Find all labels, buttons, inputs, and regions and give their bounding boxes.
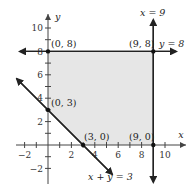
y-tick-label: 10: [32, 23, 44, 33]
x-tick-label: 10: [159, 150, 171, 160]
x-axis-arrow-icon: [180, 142, 186, 148]
equation-label-y-equals-8: y = 8: [158, 38, 184, 49]
y-axis-arrow-icon: [45, 14, 51, 20]
point-0-3: [46, 108, 50, 112]
x-tick-label: 2: [69, 150, 75, 160]
point-0-8: [46, 49, 50, 53]
equation-label-x-equals-9: x = 9: [140, 7, 165, 18]
equation-label-x-plus-y-equals-3: x + y = 3: [88, 171, 133, 182]
point-label-0-8: (0, 8): [51, 38, 77, 49]
point-label-0-3: (0, 3): [51, 97, 77, 108]
y-axis-label: y: [54, 11, 61, 22]
point-9-8: [151, 49, 155, 53]
point-label-9-0: (9, 0): [129, 131, 155, 142]
y-tick-label: 2: [37, 117, 43, 127]
x-tick-label: −2: [18, 150, 31, 160]
point-label-9-8: (9, 8): [129, 38, 155, 49]
y-tick-label: −2: [30, 164, 43, 174]
point-9-0: [151, 143, 155, 147]
x-tick-label: 6: [115, 150, 121, 160]
x-tick-label: 8: [139, 150, 145, 160]
point-3-0: [81, 143, 85, 147]
point-label-3-0: (3, 0): [84, 131, 110, 142]
feasible-region-chart: −2 2 4 6 8 10 −2 2 4 6 8 10 x y (0, 8) (…: [0, 0, 196, 196]
y-tick-label: 6: [37, 70, 43, 80]
x-axis-label: x: [178, 129, 184, 140]
